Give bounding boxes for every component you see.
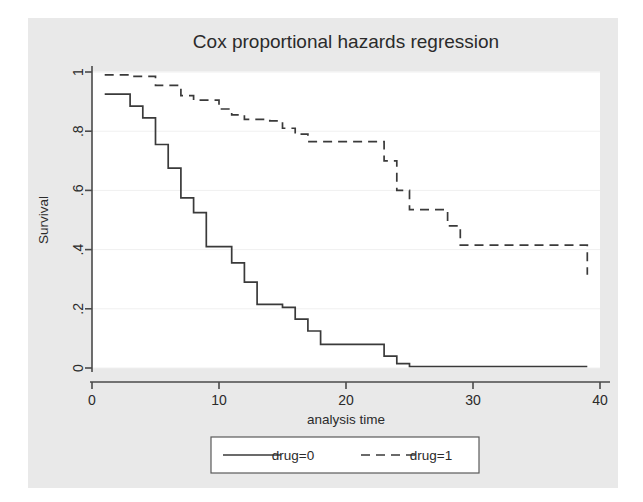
y-tick-label: .6 [70,184,86,196]
y-tick-label: .8 [70,125,86,137]
x-axis-title: analysis time [307,412,385,427]
plot-background [92,72,600,369]
y-tick-label: .2 [70,303,86,315]
x-tick-label: 20 [338,392,354,408]
legend: drug=0drug=1 [211,437,479,473]
y-tick-label: .4 [70,244,86,256]
survival-chart: 0.2.4.6.81Survival010203040analysis time… [0,0,643,502]
y-tick-label: 1 [70,68,86,76]
x-tick-label: 40 [592,392,608,408]
y-axis-title: Survival [36,196,51,244]
legend-label-drug-1: drug=1 [410,448,452,463]
x-axis-ticks: 010203040 [88,382,608,408]
y-axis-ticks: 0.2.4.6.81 [70,68,92,372]
y-tick-label: 0 [70,364,86,372]
x-tick-label: 0 [88,392,96,408]
legend-label-drug-0: drug=0 [272,448,314,463]
x-tick-label: 30 [465,392,481,408]
chart-title: Cox proportional hazards regression [193,31,499,52]
x-tick-label: 10 [211,392,227,408]
figure-container: 0.2.4.6.81Survival010203040analysis time… [0,0,643,502]
